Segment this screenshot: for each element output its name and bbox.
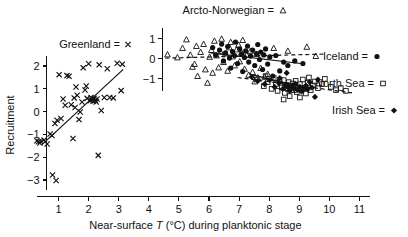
data-point (298, 95, 303, 100)
data-point (105, 66, 110, 71)
data-point (248, 54, 253, 59)
data-point (261, 52, 266, 57)
y-axis-tick-label: −1 (27, 128, 40, 140)
y-axis-tick-label: 2 (33, 60, 39, 72)
legend-label-irish-sea: Irish Sea = (332, 104, 385, 116)
legend-entry-iceland: Iceland = (323, 50, 380, 62)
data-point (260, 67, 265, 72)
data-point (219, 36, 225, 41)
data-point (76, 117, 81, 122)
data-point (281, 97, 286, 102)
x-axis-tick-label: 6 (206, 203, 212, 215)
data-point (213, 52, 218, 57)
data-point (272, 84, 278, 90)
data-point (242, 55, 247, 60)
legend-label-arcto-norwegian: Arcto-Norwegian = (183, 4, 274, 16)
x-axis-tick-label: 7 (236, 203, 242, 215)
data-point (96, 153, 101, 158)
data-point (240, 69, 245, 74)
figure-container: 210−1−2−3123456789101110−1 RecruitmentNe… (0, 0, 408, 237)
data-point (99, 108, 104, 113)
data-point (312, 94, 318, 100)
data-point (240, 37, 246, 42)
data-point (102, 95, 107, 100)
data-point (301, 77, 306, 82)
legend-symbol-arcto-norwegian (280, 8, 286, 13)
data-point (82, 87, 87, 92)
axes-layer: 210−1−2−3123456789101110−1 (27, 28, 370, 215)
data-point (257, 57, 262, 62)
data-point (84, 83, 89, 88)
x-axis-tick-label: 3 (116, 203, 122, 215)
legend-entry-arcto-norwegian: Arcto-Norwegian = (183, 4, 286, 16)
data-point (79, 99, 84, 104)
data-point (227, 56, 232, 61)
data-point (307, 75, 312, 80)
x-axis-tick-label: 8 (266, 203, 272, 215)
inset-axis-tick-label: −1 (143, 73, 156, 85)
x-axis-tick-label: 11 (354, 203, 365, 215)
data-point (255, 42, 260, 47)
inset-axis-tick-label: 0 (149, 53, 155, 65)
legend-label-iceland: Iceland = (323, 50, 368, 62)
data-point (304, 44, 310, 49)
data-point (45, 141, 50, 146)
data-point (216, 65, 222, 70)
data-point (237, 46, 242, 51)
x-axis-tick-label: 1 (55, 203, 61, 215)
data-point (184, 37, 190, 42)
data-point (285, 63, 290, 68)
y-axis-tick-label: −3 (27, 174, 40, 186)
series-iceland (210, 40, 305, 79)
data-point (111, 95, 116, 100)
inset-axis-tick-label: 1 (149, 33, 155, 45)
x-axis-tick-label: 9 (296, 203, 302, 215)
data-point (57, 72, 62, 77)
data-point (235, 61, 240, 66)
data-point (210, 70, 216, 75)
data-point (97, 62, 102, 67)
data-point (265, 62, 270, 67)
data-point (180, 45, 186, 50)
data-point (273, 53, 278, 58)
data-point (225, 44, 230, 49)
x-axis-tick-label: 2 (86, 203, 92, 215)
data-point (277, 68, 282, 73)
legend-symbol-iceland (374, 54, 379, 59)
data-point (233, 40, 238, 45)
data-point (212, 38, 218, 43)
data-point (195, 73, 201, 78)
data-point (300, 61, 305, 66)
y-axis-tick-label: 0 (33, 106, 39, 118)
data-point (243, 48, 248, 53)
data-point (201, 41, 207, 46)
data-point (281, 60, 286, 65)
data-point (60, 96, 65, 101)
data-point (271, 45, 277, 50)
series-greenland (34, 61, 125, 183)
data-point (70, 136, 75, 141)
data-point (287, 94, 292, 99)
data-point (81, 65, 86, 70)
data-point (217, 48, 222, 53)
data-point (86, 61, 91, 66)
x-axis-title: Near-surface T (°C) during planktonic st… (89, 219, 301, 231)
data-point (165, 52, 171, 57)
data-point (292, 58, 297, 63)
y-axis-tick-label: 1 (33, 83, 39, 95)
y-axis-tick-label: −2 (27, 151, 40, 163)
data-point (228, 66, 233, 71)
data-point (115, 61, 120, 66)
data-point (119, 88, 124, 93)
data-point (250, 48, 255, 53)
legend-symbol-irish-sea (391, 107, 397, 113)
legend-entry-greenland: Greenland = (59, 38, 130, 50)
data-point (221, 58, 226, 63)
data-point (210, 45, 215, 50)
scatter-plot: 210−1−2−3123456789101110−1 RecruitmentNe… (0, 0, 408, 237)
axis-labels-layer: RecruitmentNear-surface T (°C) during pl… (4, 95, 302, 230)
data-point (223, 50, 228, 55)
legend-label-greenland: Greenland = (59, 38, 120, 50)
data-point (203, 67, 209, 72)
data-point (252, 63, 257, 68)
